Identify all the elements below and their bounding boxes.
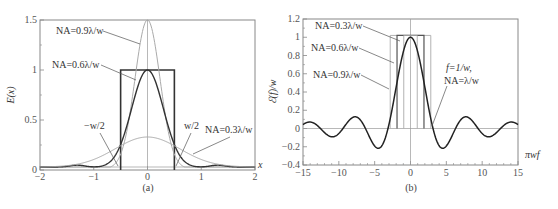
y-tick-label-b: 1.2 xyxy=(288,13,301,24)
leader-na06-b xyxy=(359,48,394,63)
panel-a: −2−101200.511.5 E(x) x (a) NA=0.9λ/w NA=… xyxy=(5,14,263,194)
y-tick-label-b: −0.2 xyxy=(282,141,300,152)
panel-a-caption: (a) xyxy=(142,182,153,194)
x-tick-label-a: 2 xyxy=(253,171,258,182)
leader-na06-a xyxy=(101,65,136,80)
x-tick-label-b: −10 xyxy=(331,167,347,178)
panel-b-caption: (b) xyxy=(405,182,417,194)
x-tick-label-b: 5 xyxy=(444,167,449,178)
leader-na09-b xyxy=(361,75,389,89)
figure: −2−101200.511.5 E(x) x (a) NA=0.9λ/w NA=… xyxy=(0,0,558,209)
annotation-w2: w/2 xyxy=(184,120,199,131)
x-tick-label-b: 0 xyxy=(408,167,413,178)
annotation-na06-b: NA=0.6λ/w xyxy=(311,42,359,53)
y-tick-label-b: 0.2 xyxy=(288,104,301,115)
panel-b: −15−10−5051015−0.4−0.200.20.40.60.811.2 … xyxy=(267,13,541,194)
panel-b-ticks: −15−10−5051015−0.4−0.200.20.40.60.811.2 xyxy=(282,13,523,178)
x-tick-label-b: 15 xyxy=(513,167,523,178)
annotation-na03-a: NA=0.3λ/w xyxy=(205,124,253,135)
y-tick-label-b: 0.4 xyxy=(288,86,301,97)
leader-na03-a xyxy=(193,137,230,154)
panel-a-curves xyxy=(40,20,255,170)
annotation-f-1-w: f=1/w, xyxy=(446,62,472,73)
y-tick-label-a: 1 xyxy=(32,64,37,75)
panel-b-xlabel: πwf xyxy=(525,149,541,160)
leader-na03-b xyxy=(363,26,400,41)
panel-a-xlabel: x xyxy=(257,159,263,170)
y-tick-label-b: 0 xyxy=(295,123,300,134)
annotation-na09-b: NA=0.9λ/w xyxy=(313,69,361,80)
x-tick-label-b: 10 xyxy=(477,167,487,178)
y-tick-label-b: −0.4 xyxy=(282,159,300,170)
panel-b-ylabel: ℰ(f)/w xyxy=(267,79,279,104)
y-tick-label-a: 1.5 xyxy=(25,14,38,25)
y-tick-label-a: 0.5 xyxy=(25,114,38,125)
annotation-na06-a: NA=0.6λ/w xyxy=(52,59,100,70)
leader-minus-w2 xyxy=(100,133,118,166)
panel-a-ylabel: E(x) xyxy=(5,86,17,105)
y-tick-label-b: 0.6 xyxy=(288,68,301,79)
leader-f-1-w xyxy=(432,86,447,126)
leader-na09-a xyxy=(103,31,140,44)
x-tick-label-a: −1 xyxy=(88,171,99,182)
annotation-minus-w2: −w/2 xyxy=(84,120,105,131)
annotation-na-lambda-w: NA=λ/w xyxy=(444,75,480,86)
annotation-na09-a: NA=0.9λ/w xyxy=(56,25,104,36)
y-tick-label-b: 1 xyxy=(295,31,300,42)
panel-b-curves xyxy=(303,19,518,165)
annotation-na03-b: NA=0.3λ/w xyxy=(315,20,363,31)
y-tick-label-a: 0 xyxy=(32,164,37,175)
y-tick-label-b: 0.8 xyxy=(288,50,301,61)
x-tick-label-a: 0 xyxy=(145,171,150,182)
x-tick-label-a: 1 xyxy=(199,171,204,182)
x-tick-label-b: −5 xyxy=(369,167,380,178)
